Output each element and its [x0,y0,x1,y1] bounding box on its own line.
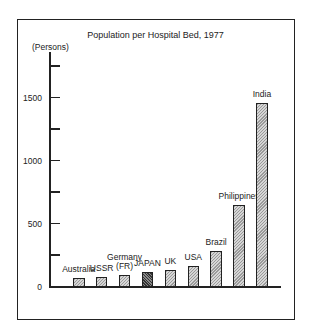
y-tick [50,65,60,67]
y-tick-label: 500 [2,219,42,229]
chart-frame [17,19,295,320]
y-tick [50,223,60,225]
y-tick-label: 1000 [2,156,42,166]
y-tick [50,128,60,130]
y-tick [50,160,60,162]
bar-philippines [233,205,245,287]
bar-uk [165,270,177,287]
y-tick [50,254,60,256]
bar-japan [142,272,154,286]
y-tick-label: 0 [2,282,42,292]
bar-label: India [232,90,292,99]
bar-usa [188,266,200,287]
bar-brazil [210,251,222,287]
bar-australia [73,278,85,286]
y-tick-label: 1500 [2,93,42,103]
bar-india [256,103,268,286]
y-axis-unit-label: (Persons) [32,42,69,52]
y-tick [50,191,60,193]
y-axis [49,52,51,287]
bar-germany-fr- [119,275,131,287]
bar-ussr [96,277,108,287]
chart-title: Population per Hospital Bed, 1977 [0,30,311,40]
y-tick [50,97,60,99]
